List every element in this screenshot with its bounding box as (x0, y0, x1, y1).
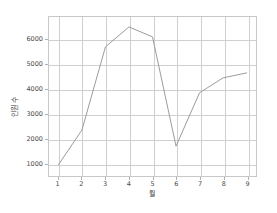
x-axis-label: 월 (149, 188, 155, 198)
series-polyline (58, 27, 246, 165)
plot-area (48, 16, 257, 177)
y-tick-label: 6000 (26, 35, 43, 43)
x-tick-label: 1 (55, 180, 59, 188)
x-tick-label: 2 (79, 180, 83, 188)
x-tick-label: 4 (127, 180, 131, 188)
y-tick-label: 5000 (26, 60, 43, 68)
x-tick-label: 5 (150, 180, 154, 188)
y-tick-label: 3000 (26, 110, 43, 118)
y-tick-label: 1000 (26, 160, 43, 168)
x-tick-label: 9 (245, 180, 249, 188)
x-tick-label: 8 (222, 180, 226, 188)
chart-figure: 인원 수 월 100020003000400050006000123456789 (0, 0, 277, 213)
x-tick-label: 3 (103, 180, 107, 188)
y-tick-label: 4000 (26, 85, 43, 93)
y-tick-label: 2000 (26, 135, 43, 143)
data-series-line (49, 17, 256, 176)
y-axis-label: 인원 수 (9, 96, 19, 116)
x-tick-label: 6 (174, 180, 178, 188)
x-tick-label: 7 (198, 180, 202, 188)
